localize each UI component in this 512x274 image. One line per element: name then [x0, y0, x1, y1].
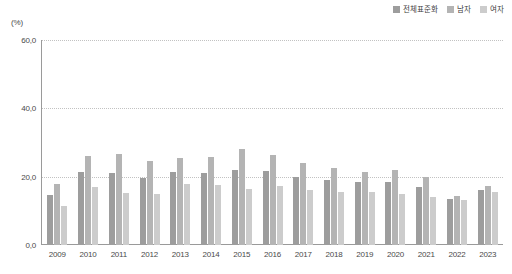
bar-group [226, 40, 257, 245]
bar-female[interactable] [246, 189, 252, 245]
legend-label-male: 남자 [457, 6, 471, 14]
bar-group [411, 40, 442, 245]
bar-group [349, 40, 380, 245]
x-axis-tick-label: 2014 [196, 250, 227, 259]
bar-total[interactable] [140, 178, 146, 245]
y-axis-tick-label: 0,0 [25, 241, 41, 250]
bar-male[interactable] [454, 196, 460, 245]
x-axis-tick-label: 2018 [319, 250, 350, 259]
bar-total[interactable] [478, 190, 484, 245]
bar-total[interactable] [109, 173, 115, 245]
bar-total[interactable] [355, 182, 361, 245]
bar-female[interactable] [307, 190, 313, 245]
bar-group [196, 40, 227, 245]
bar-female[interactable] [461, 200, 467, 245]
bar-group [319, 40, 350, 245]
x-axis-tick-label: 2010 [73, 250, 104, 259]
bar-male[interactable] [147, 161, 153, 245]
bar-total[interactable] [447, 199, 453, 245]
y-axis-tick-label: 40,0 [21, 104, 41, 113]
y-axis-tick-label: 20,0 [21, 172, 41, 181]
bar-total[interactable] [47, 195, 53, 245]
bar-total[interactable] [324, 180, 330, 245]
bar-group [42, 40, 73, 245]
bar-male[interactable] [362, 172, 368, 245]
bar-female[interactable] [277, 186, 283, 245]
bar-female[interactable] [399, 194, 405, 245]
x-axis-tick-label: 2020 [380, 250, 411, 259]
x-axis-tick-labels: 2009201020112012201320142015201620172018… [42, 250, 503, 259]
bar-male[interactable] [392, 170, 398, 245]
bar-female[interactable] [123, 193, 129, 245]
legend-item-male[interactable]: 남자 [447, 6, 471, 14]
legend-item-total[interactable]: 전체표준화 [393, 6, 438, 14]
x-axis-tick-label: 2022 [442, 250, 473, 259]
bar-total[interactable] [416, 187, 422, 245]
bar-female[interactable] [215, 185, 221, 245]
bar-male[interactable] [331, 168, 337, 245]
x-axis-tick-label: 2023 [472, 250, 503, 259]
bar-male[interactable] [85, 156, 91, 245]
bar-male[interactable] [239, 149, 245, 245]
x-axis-tick-label: 2009 [42, 250, 73, 259]
bar-female[interactable] [61, 206, 67, 245]
legend-swatch-female-icon [480, 6, 487, 13]
chart-legend: 전체표준화 남자 여자 [393, 6, 504, 14]
legend-swatch-total-icon [393, 6, 400, 13]
x-axis-tick-label: 2017 [288, 250, 319, 259]
x-axis-tick-label: 2021 [411, 250, 442, 259]
bar-groups [42, 40, 503, 245]
bar-group [165, 40, 196, 245]
bar-male[interactable] [485, 186, 491, 245]
bar-total[interactable] [201, 173, 207, 245]
legend-label-total: 전체표준화 [403, 6, 438, 14]
x-axis-tick-label: 2011 [103, 250, 134, 259]
bar-female[interactable] [338, 192, 344, 245]
bar-total[interactable] [293, 177, 299, 245]
bar-total[interactable] [170, 172, 176, 245]
plot-area: 0,020,040,060,0 [41, 40, 503, 245]
bar-group [442, 40, 473, 245]
bar-group [380, 40, 411, 245]
bar-male[interactable] [270, 155, 276, 245]
x-axis-tick-label: 2019 [349, 250, 380, 259]
x-axis-tick-label: 2013 [165, 250, 196, 259]
legend-label-female: 여자 [490, 6, 504, 14]
bar-male[interactable] [423, 177, 429, 245]
bar-group [103, 40, 134, 245]
y-axis-unit-label: (%) [11, 18, 23, 27]
bar-total[interactable] [263, 171, 269, 245]
legend-item-female[interactable]: 여자 [480, 6, 504, 14]
bar-female[interactable] [154, 194, 160, 245]
bar-group [472, 40, 503, 245]
bar-total[interactable] [385, 182, 391, 245]
bar-total[interactable] [78, 172, 84, 245]
bar-group [134, 40, 165, 245]
bar-female[interactable] [184, 184, 190, 246]
bar-female[interactable] [369, 192, 375, 245]
bar-female[interactable] [430, 197, 436, 245]
x-axis-tick-label: 2015 [226, 250, 257, 259]
y-axis-tick-label: 60,0 [21, 36, 41, 45]
bar-group [288, 40, 319, 245]
bar-group [73, 40, 104, 245]
bar-total[interactable] [232, 170, 238, 245]
bar-male[interactable] [54, 184, 60, 246]
bar-female[interactable] [92, 187, 98, 245]
bar-male[interactable] [116, 154, 122, 245]
bar-male[interactable] [177, 158, 183, 245]
bar-female[interactable] [492, 192, 498, 245]
bar-chart: 전체표준화 남자 여자 (%) 0,020,040,060,0 20092010… [0, 0, 512, 274]
bar-group [257, 40, 288, 245]
legend-swatch-male-icon [447, 6, 454, 13]
bar-male[interactable] [208, 157, 214, 245]
x-axis-tick-label: 2016 [257, 250, 288, 259]
bar-male[interactable] [300, 163, 306, 245]
x-axis-tick-label: 2012 [134, 250, 165, 259]
